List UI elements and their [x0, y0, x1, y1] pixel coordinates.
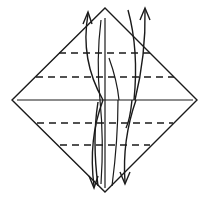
down-arrow-right-icon [120, 100, 136, 184]
origami-diagram [0, 0, 207, 200]
up-arrow-right-icon [128, 8, 150, 100]
